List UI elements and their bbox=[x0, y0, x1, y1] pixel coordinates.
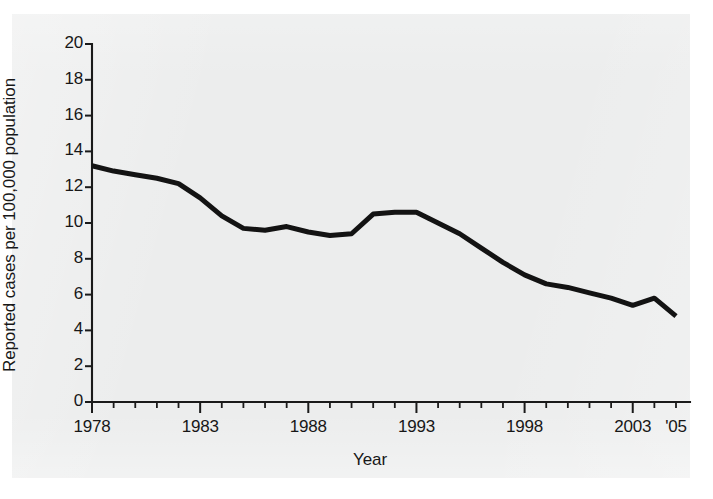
data-series-line bbox=[92, 166, 676, 316]
y-tick-label-18: 18 bbox=[43, 69, 83, 89]
x-tick-label-1978: 1978 bbox=[60, 417, 124, 437]
x-tick-label-1988: 1988 bbox=[276, 417, 340, 437]
y-tick-label-8: 8 bbox=[43, 248, 83, 268]
y-tick-label-4: 4 bbox=[43, 319, 83, 339]
y-axis-title: Reported cases per 100,000 population bbox=[0, 40, 26, 410]
y-tick-label-6: 6 bbox=[43, 284, 83, 304]
y-tick-label-14: 14 bbox=[43, 140, 83, 160]
y-tick-label-12: 12 bbox=[43, 176, 83, 196]
y-tick-label-2: 2 bbox=[43, 355, 83, 375]
chart-figure: 02468101214161820 1978198319881993199820… bbox=[0, 0, 713, 499]
x-tick-label-1998: 1998 bbox=[493, 417, 557, 437]
chart-axes bbox=[92, 44, 690, 402]
x-axis-title: Year bbox=[92, 450, 648, 470]
x-tick-label-2005: '05 bbox=[644, 417, 708, 437]
y-tick-label-16: 16 bbox=[43, 105, 83, 125]
y-tick-label-0: 0 bbox=[43, 391, 83, 411]
chart-tick-marks bbox=[85, 44, 676, 413]
y-tick-label-10: 10 bbox=[43, 212, 83, 232]
x-tick-label-1983: 1983 bbox=[168, 417, 232, 437]
y-tick-label-20: 20 bbox=[43, 33, 83, 53]
x-tick-label-1993: 1993 bbox=[384, 417, 448, 437]
